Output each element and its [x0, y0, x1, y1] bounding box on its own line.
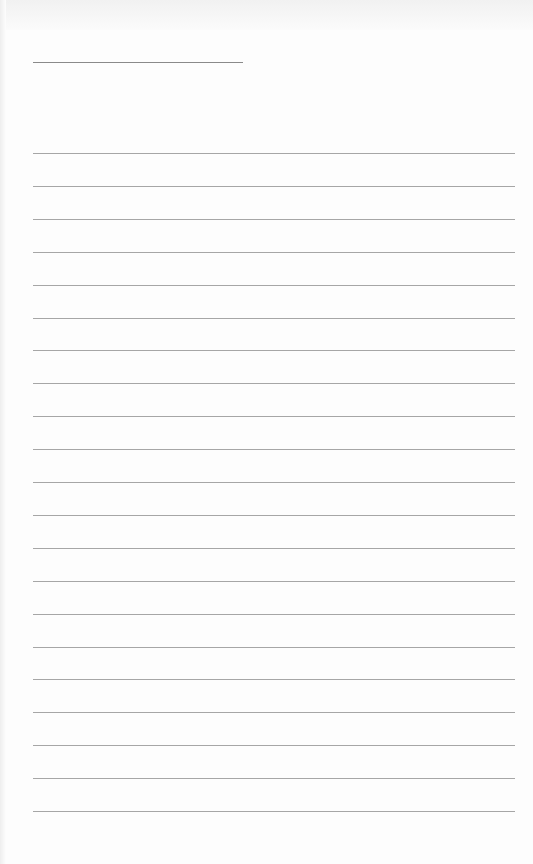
- ruled-line: [33, 647, 515, 648]
- scan-shadow-top: [0, 0, 533, 30]
- ruled-line: [33, 416, 515, 417]
- ruled-line: [33, 679, 515, 680]
- ruled-line: [33, 614, 515, 615]
- ruled-line: [33, 712, 515, 713]
- ruled-line: [33, 778, 515, 779]
- ruled-line: [33, 252, 515, 253]
- scan-shadow-left: [0, 0, 6, 864]
- ruled-line: [33, 285, 515, 286]
- title-write-line: [33, 62, 243, 63]
- ruled-line: [33, 548, 515, 549]
- ruled-line: [33, 745, 515, 746]
- ruled-line: [33, 482, 515, 483]
- ruled-line: [33, 449, 515, 450]
- ruled-line: [33, 581, 515, 582]
- ruled-line: [33, 515, 515, 516]
- ruled-line: [33, 219, 515, 220]
- ruled-line: [33, 153, 515, 154]
- ruled-line: [33, 318, 515, 319]
- ruled-line: [33, 350, 515, 351]
- ruled-line: [33, 383, 515, 384]
- ruled-line: [33, 186, 515, 187]
- ruled-line: [33, 811, 515, 812]
